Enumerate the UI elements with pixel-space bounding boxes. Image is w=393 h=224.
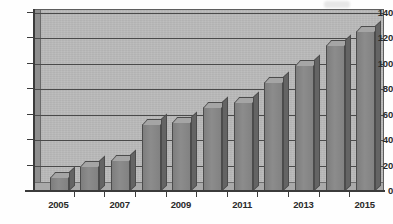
plot-area [33, 9, 384, 191]
y-tick-label-0: 0 [365, 185, 393, 196]
gridline-140 [34, 13, 383, 14]
bar-2012[interactable] [264, 82, 283, 191]
bar-front-face [142, 124, 161, 191]
y-tick-mark-120 [27, 37, 33, 38]
bar-side-face [253, 92, 259, 191]
y-tick-label-60: 60 [365, 108, 393, 119]
y-axis-line [33, 9, 35, 191]
bar-2006[interactable] [80, 166, 99, 191]
bar-2009[interactable] [172, 122, 191, 191]
y-tick-label-100: 100 [365, 57, 393, 68]
y-tick-mark-0 [27, 190, 33, 191]
y-tick-mark-140 [27, 12, 33, 13]
y-tick-label-120: 120 [365, 32, 393, 43]
bar-2011[interactable] [234, 102, 253, 191]
y-tick-mark-80 [27, 88, 33, 89]
x-tick-mark-8 [319, 191, 320, 197]
bar-front-face [203, 107, 222, 191]
bar-side-face [283, 71, 289, 191]
y-tick-mark-40 [27, 139, 33, 140]
x-tick-mark-0 [74, 191, 75, 197]
y-tick-mark-60 [27, 114, 33, 115]
x-tick-mark-3 [166, 191, 167, 197]
x-tick-mark-2 [135, 191, 136, 197]
bar-2007[interactable] [111, 160, 130, 191]
bar-2010[interactable] [203, 107, 222, 191]
bar-front-face [50, 177, 69, 191]
x-tick-mark-1 [104, 191, 105, 197]
y-tick-label-40: 40 [365, 134, 393, 145]
bar-front-face [326, 45, 345, 191]
x-tick-label-2013: 2013 [283, 199, 323, 210]
bar-front-face [111, 160, 130, 191]
bar-side-face [222, 97, 228, 191]
bar-front-face [172, 122, 191, 191]
bar-front-face [295, 65, 314, 191]
bar-side-face [161, 113, 167, 191]
bar-front-face [234, 102, 253, 191]
bar-side-face [130, 150, 136, 191]
x-tick-label-2005: 2005 [38, 199, 78, 210]
bar-front-face [264, 82, 283, 191]
x-tick-mark-4 [196, 191, 197, 197]
y-tick-mark-100 [27, 63, 33, 64]
bar-side-face [99, 155, 105, 191]
bar-front-face [80, 166, 99, 191]
x-tick-label-2007: 2007 [100, 199, 140, 210]
x-tick-label-2015: 2015 [345, 199, 385, 210]
x-tick-label-2009: 2009 [161, 199, 201, 210]
bar-side-face [314, 55, 320, 191]
y-tick-mark-20 [27, 165, 33, 166]
x-tick-mark-5 [227, 191, 228, 197]
bar-2005[interactable] [50, 177, 69, 191]
x-tick-mark-9 [349, 191, 350, 197]
y-tick-label-140: 140 [365, 7, 393, 18]
x-tick-mark-6 [257, 191, 258, 197]
bar-2014[interactable] [326, 45, 345, 191]
x-tick-label-2011: 2011 [222, 199, 262, 210]
bar-side-face [191, 112, 197, 191]
bar-2013[interactable] [295, 65, 314, 191]
scan-artifact [324, 1, 350, 8]
x-tick-mark-7 [288, 191, 289, 197]
y-tick-label-80: 80 [365, 83, 393, 94]
x-axis-line [25, 190, 385, 192]
bar-2008[interactable] [142, 124, 161, 191]
y-tick-label-20: 20 [365, 159, 393, 170]
plot-left-wall [34, 10, 41, 190]
bar-chart: 020406080100120140 200520072009201120132… [0, 0, 393, 224]
bar-side-face [345, 34, 351, 191]
